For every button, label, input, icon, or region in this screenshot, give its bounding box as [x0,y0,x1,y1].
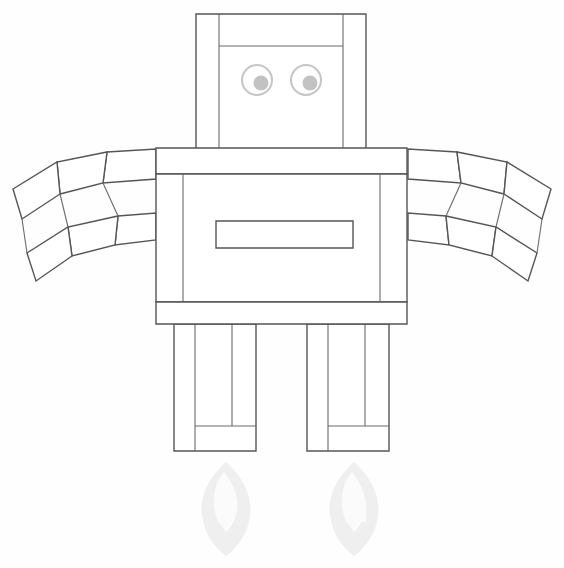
head-outline [196,14,366,151]
arm-left [13,149,156,281]
arm-right-segment-lower-3 [492,227,537,281]
arm-right-segment-lower-1 [408,213,449,245]
leg-left [174,324,256,451]
drawing-canvas: Robot Line Drawing Black-and-white outli… [0,0,564,568]
arm-right-band-edge-inner [537,219,542,253]
leg-right [307,324,389,451]
arm-right-segment-upper-1 [408,149,461,183]
eye-left [242,65,272,95]
flame-left [201,462,250,556]
leg-right-outline [307,324,389,451]
arm-right-segment-upper-2 [457,152,507,194]
arm-left-segment-lower-1 [115,213,156,245]
arm-left-segment-upper-2 [57,152,107,194]
arm-left-band-edge-outer [103,183,118,216]
hip-bar [156,302,407,324]
leg-left-outline [174,324,256,451]
arm-left-band-edge-mid [60,194,68,227]
arm-left-segment-upper-1 [103,149,156,183]
arm-right-band-edge-mid [496,194,504,227]
arm-left-segment-lower-2 [68,216,118,256]
eye-left-pupil [254,76,269,91]
arm-left-band-edge-inner [22,219,27,253]
arm-right-segment-upper-3 [504,162,551,219]
arm-right [408,149,551,281]
chest-slot [216,221,353,248]
arm-right-segment-lower-2 [446,216,496,256]
flame-right [329,462,378,556]
robot-illustration: Robot Line Drawing Black-and-white outli… [0,0,564,568]
head [196,14,366,151]
eye-right-pupil [303,76,318,91]
torso [156,148,407,324]
arm-left-segment-upper-3 [13,162,60,219]
arm-left-segment-lower-3 [27,227,72,281]
shoulder-bar [156,148,407,174]
arm-right-band-edge-outer [446,183,461,216]
eye-right [291,65,321,95]
